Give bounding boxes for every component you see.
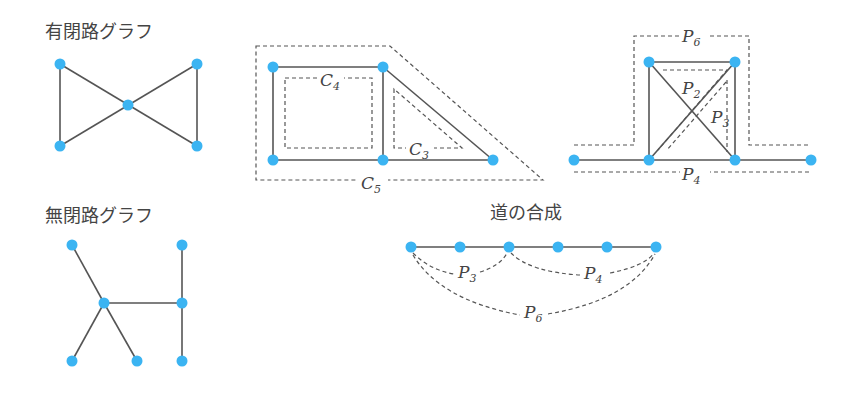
edge [104,303,137,361]
title-cyclic-graph: 有閉路グラフ [45,21,153,42]
vertex [569,155,580,166]
graph-theory-diagram: 有閉路グラフ C4 C3 C5 [0,0,844,398]
vertex [806,155,817,166]
vertex [132,356,143,367]
vertex [730,57,741,68]
vertex [644,57,655,68]
title-acyclic-graph: 無閉路グラフ [45,205,153,226]
vertex [177,240,188,251]
vertex [177,298,188,309]
vertex [67,356,78,367]
edge [383,67,493,160]
paths-graph: P6 P2 P3 P4 [569,26,817,187]
edge [72,303,104,361]
label-p3: P3 [457,262,476,285]
vertex [192,59,203,70]
vertex [406,242,417,253]
composition-graph: P3 P4 P6 [406,242,662,326]
cycles-graph: C4 C3 C5 [256,46,543,196]
vertex [268,62,279,73]
vertex [378,155,389,166]
vertex [268,155,279,166]
vertex [55,59,66,70]
vertex [488,155,499,166]
vertex [67,240,78,251]
label-p2: P2 [681,78,700,101]
vertex [602,242,613,253]
title-path-composition: 道の合成 [490,202,562,223]
bowtie-graph [55,59,203,152]
label-p4: P4 [583,263,602,286]
vertex [644,155,655,166]
vertex [177,356,188,367]
vertex [123,100,134,111]
vertex [455,242,466,253]
vertex [553,242,564,253]
vertex [504,242,515,253]
vertex [730,155,741,166]
vertex [192,141,203,152]
label-p6: P6 [523,302,542,325]
vertex [99,298,110,309]
cycle-c3-outline [394,89,462,148]
vertex [651,242,662,253]
edge [72,245,104,303]
path-p4-arc [511,253,580,275]
vertex [55,141,66,152]
path-p4-arc [610,253,654,273]
vertex [378,62,389,73]
tree-graph [67,240,188,367]
path-p3-arc [480,253,507,272]
